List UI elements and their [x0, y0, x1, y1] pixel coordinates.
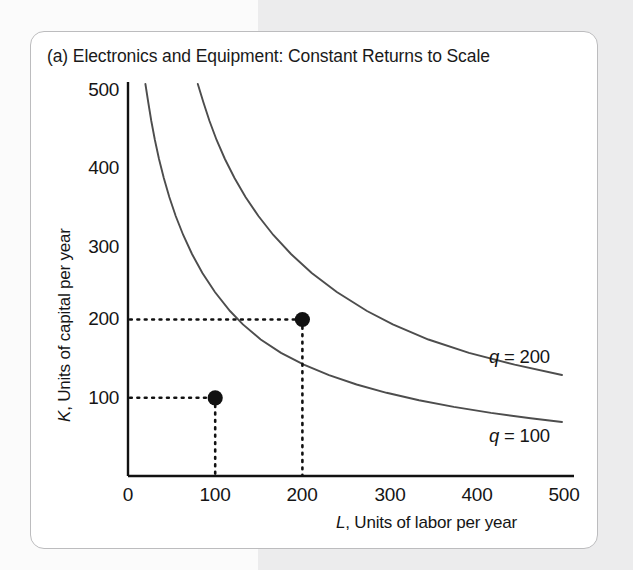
- figure-page: (a) Electronics and Equipment: Constant …: [0, 0, 633, 570]
- curve-label-q200: q = 200: [489, 346, 550, 368]
- xtick-label-300: 300: [360, 484, 420, 506]
- xtick-label-200: 200: [272, 484, 332, 506]
- xtick-label-500: 500: [534, 484, 594, 506]
- ytick-label-500: 500: [65, 79, 119, 101]
- y-axis-title-symbol: K: [55, 411, 74, 422]
- xtick-label-100: 100: [185, 484, 245, 506]
- curve-label-q100: q = 100: [489, 425, 550, 447]
- curve-label-q200-symbol: q: [489, 346, 499, 367]
- xtick-label-400: 400: [447, 484, 507, 506]
- x-axis-title-symbol: L: [336, 513, 345, 532]
- x-axis-title: L, Units of labor per year: [336, 513, 517, 533]
- data-point-q200: [295, 312, 310, 327]
- chart-svg: [31, 32, 599, 550]
- y-axis-title-text: , Units of capital per year: [55, 228, 74, 411]
- curve-label-q200-value: = 200: [499, 346, 550, 367]
- chart-plot-area: 500 400 300 200 100 0 100 200 300 400 50…: [31, 32, 599, 550]
- figure-card: (a) Electronics and Equipment: Constant …: [30, 31, 598, 549]
- data-point-q100: [208, 390, 223, 405]
- curve-label-q100-value: = 100: [499, 425, 550, 446]
- y-axis-title: K, Units of capital per year: [55, 228, 75, 422]
- curve-q100: [145, 84, 562, 422]
- x-axis-title-text: , Units of labor per year: [345, 513, 517, 532]
- xtick-label-0: 0: [98, 484, 158, 506]
- curve-label-q100-symbol: q: [489, 425, 499, 446]
- ytick-label-400: 400: [65, 157, 119, 179]
